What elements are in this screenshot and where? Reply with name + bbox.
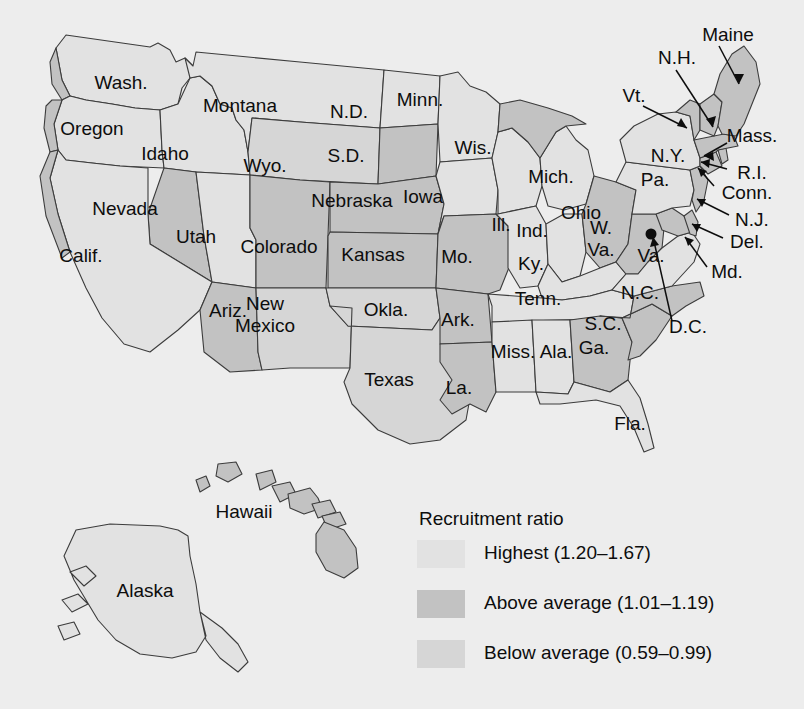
- label-nebraska: Nebraska: [311, 190, 393, 211]
- legend-swatch-below-average: [417, 640, 465, 668]
- label-mass: Mass.: [727, 125, 778, 146]
- label-hawaii: Hawaii: [215, 501, 272, 522]
- state-sd[interactable]: [378, 124, 438, 184]
- label-ind: Ind.: [516, 220, 548, 241]
- label-ala: Ala.: [540, 341, 573, 362]
- label-la: La.: [446, 377, 472, 398]
- label-minn: Minn.: [397, 89, 443, 110]
- label-nj: N.J.: [735, 209, 769, 230]
- label-alaska: Alaska: [116, 580, 173, 601]
- label-miss: Miss.: [491, 341, 535, 362]
- label-ga: Ga.: [579, 337, 610, 358]
- legend-swatch-above-average: [417, 590, 465, 618]
- label-ill: Ill.: [492, 214, 511, 235]
- legend-swatch-highest: [417, 540, 465, 568]
- label-dc: D.C.: [669, 316, 707, 337]
- label-ny: N.Y.: [651, 145, 686, 166]
- state-nh[interactable]: [700, 94, 722, 136]
- label-texas: Texas: [364, 369, 414, 390]
- label-nd: N.D.: [330, 101, 368, 122]
- label-pa: Pa.: [641, 169, 670, 190]
- label-idaho: Idaho: [141, 143, 189, 164]
- state-maine[interactable]: [714, 46, 760, 136]
- label-fla: Fla.: [614, 413, 646, 434]
- label-wva-2: Va.: [587, 239, 614, 260]
- label-md: Md.: [711, 261, 743, 282]
- label-nc: N.C.: [621, 282, 659, 303]
- dc-point-marker: [646, 229, 657, 240]
- label-montana: Montana: [203, 95, 277, 116]
- label-nh: N.H.: [658, 47, 696, 68]
- label-kansas: Kansas: [341, 244, 404, 265]
- label-okla: Okla.: [364, 299, 408, 320]
- label-mo: Mo.: [441, 246, 473, 267]
- label-sd: S.D.: [328, 145, 365, 166]
- label-utah: Utah: [176, 226, 216, 247]
- label-mich: Mich.: [528, 166, 573, 187]
- label-va: Va.: [637, 245, 664, 266]
- legend-label-above-average: Above average (1.01–1.19): [484, 592, 714, 614]
- label-ark: Ark.: [441, 309, 475, 330]
- label-wash: Wash.: [94, 72, 147, 93]
- label-oregon: Oregon: [60, 118, 123, 139]
- label-nevada: Nevada: [92, 198, 158, 219]
- label-ky: Ky.: [518, 253, 544, 274]
- label-wva-1: W.: [590, 217, 612, 238]
- label-ri: R.I.: [737, 162, 767, 183]
- label-sc: S.C.: [585, 313, 622, 334]
- legend-label-highest: Highest (1.20–1.67): [484, 542, 651, 564]
- us-recruitment-ratio-map: Wash. Oregon Idaho Montana Wyo. Nevada C…: [0, 0, 804, 709]
- label-iowa: Iowa: [403, 186, 444, 207]
- legend-label-below-average: Below average (0.59–0.99): [484, 642, 712, 664]
- label-del: Del.: [730, 231, 764, 252]
- label-wis: Wis.: [455, 137, 492, 158]
- label-newmexico-2: Mexico: [235, 315, 295, 336]
- legend: Recruitment ratio Highest (1.20–1.67) Ab…: [417, 508, 787, 668]
- label-vt: Vt.: [622, 85, 645, 106]
- legend-title: Recruitment ratio: [419, 508, 564, 530]
- label-maine: Maine: [702, 24, 754, 45]
- label-newmexico-1: New: [246, 293, 284, 314]
- label-wyo: Wyo.: [243, 155, 286, 176]
- label-conn: Conn.: [722, 182, 773, 203]
- label-colorado: Colorado: [240, 236, 317, 257]
- label-calif: Calif.: [59, 245, 102, 266]
- label-tenn: Tenn.: [515, 288, 561, 309]
